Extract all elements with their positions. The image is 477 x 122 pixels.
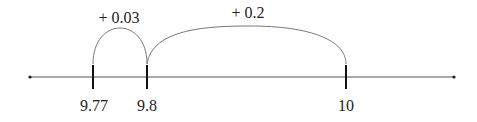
axis-right-end-dot	[452, 75, 455, 78]
jump-label-small: + 0.03	[98, 9, 139, 26]
jump-arc-large	[147, 26, 346, 64]
axis-left-end-dot	[28, 75, 31, 78]
tick-label-9-77: 9.77	[80, 97, 108, 114]
tick-label-10: 10	[338, 97, 354, 114]
tick-label-9-8: 9.8	[137, 97, 157, 114]
jump-label-large: + 0.2	[231, 4, 264, 21]
number-line-diagram: + 0.03 + 0.2 9.77 9.8 10	[0, 0, 477, 122]
jump-arc-small	[93, 28, 147, 64]
